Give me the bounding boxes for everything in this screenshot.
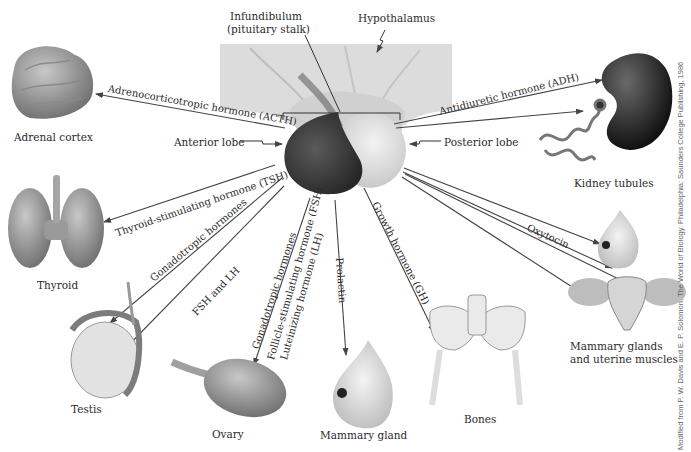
thyroid-illustration (8, 175, 104, 268)
ovary-label: Ovary (212, 428, 244, 440)
testis-illustration (71, 282, 139, 398)
infundibulum-label: Infundibulum (230, 10, 302, 22)
mammary-glands-uterine-label-line1: Mammary glands (570, 340, 663, 352)
posterior-lobe-label: Posterior lobe (444, 136, 518, 148)
bones-illustration (430, 295, 525, 405)
kidney-tubules-illustration (540, 100, 605, 160)
adrenal-cortex-illustration (12, 46, 93, 118)
kidney-tubules-label: Kidney tubules (574, 177, 654, 189)
bones-label: Bones (464, 413, 496, 425)
hypothalamus-label: Hypothalamus (358, 12, 435, 24)
source-credit: Modified from P. W. Davis and E. P. Solo… (676, 62, 685, 450)
mammary-gland-label: Mammary gland (320, 429, 407, 441)
uterus-illustration (568, 277, 686, 330)
pituitary-stalk-label: (pituitary stalk) (227, 23, 310, 35)
thyroid-label: Thyroid (37, 279, 78, 291)
pituitary-diagram: Infundibulum (pituitary stalk) Hypothala… (0, 0, 691, 452)
testis-label: Testis (71, 403, 102, 415)
adrenal-cortex-label: Adrenal cortex (14, 131, 93, 143)
ovary-illustration (172, 350, 293, 426)
anterior-lobe-label: Anterior lobe (174, 136, 244, 148)
mammary-gland-oxytocin-illustration (598, 210, 639, 268)
mammary-gland-illustration (333, 340, 393, 428)
diagram-artwork (0, 0, 691, 452)
mammary-glands-uterine-label-line2: and uterine muscles (570, 353, 678, 365)
kidney-illustration (602, 53, 672, 150)
